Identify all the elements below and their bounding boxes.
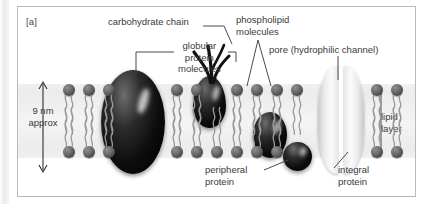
label-phospholipid-molecules: phospholipid molecules (236, 14, 289, 37)
label-line: 9 nm (22, 105, 64, 117)
label-line: molecules (236, 26, 289, 38)
phospholipid-molecule (170, 100, 184, 158)
phospholipid-tails (370, 107, 384, 147)
label-line: molecules (178, 63, 221, 75)
phospholipid-molecule (190, 100, 204, 158)
phospholipid-molecule (250, 100, 264, 158)
figure-panel: [a] (0, 0, 424, 204)
phospholipid-tails (62, 107, 76, 147)
phospholipid-molecule (82, 100, 96, 158)
phospholipid-tails (170, 107, 184, 147)
phospholipid-head (211, 146, 223, 158)
label-line: protein (338, 176, 369, 188)
phospholipid-tails (82, 107, 96, 147)
label-line: peripheral (205, 164, 247, 176)
phospholipid-molecule (102, 100, 116, 158)
phospholipid-head (103, 146, 115, 158)
phospholipid-tails (250, 107, 264, 147)
label-carbohydrate-chain: carbohydrate chain (108, 16, 189, 28)
label-pore: pore (hydrophilic channel) (269, 44, 378, 56)
label-line: approx (22, 117, 64, 129)
label-peripheral-protein: peripheral protein (205, 164, 247, 187)
phospholipid-molecule (290, 84, 304, 142)
phospholipid-molecule (210, 100, 224, 158)
phospholipid-head (83, 146, 95, 158)
phospholipid-tails (230, 107, 244, 147)
phospholipid-head (191, 146, 203, 158)
phospholipid-molecule (370, 100, 384, 158)
phospholipid-head (251, 146, 263, 158)
phospholipid-head (171, 146, 183, 158)
label-globular-protein-molecules: globular protein molecules (178, 40, 221, 75)
phospholipid-molecule (62, 100, 76, 158)
phospholipid-tails (190, 107, 204, 147)
phospholipid-tails (290, 95, 304, 135)
phospholipid-head (371, 146, 383, 158)
phospholipid-molecule (390, 100, 404, 158)
phospholipid-head (63, 146, 75, 158)
phospholipid-tails (210, 107, 224, 147)
phospholipid-tails (270, 107, 284, 147)
label-line: integral (338, 164, 369, 176)
phospholipid-molecule (270, 100, 284, 158)
label-line: protein (178, 52, 221, 64)
phospholipid-tails (390, 107, 404, 147)
label-integral-protein: integral protein (338, 164, 369, 187)
label-line: globular (178, 40, 221, 52)
label-membrane-thickness: 9 nm approx (22, 105, 64, 128)
phospholipid-head (231, 146, 243, 158)
phospholipid-head (271, 146, 283, 158)
label-line: phospholipid (236, 14, 289, 26)
phospholipid-head (391, 146, 403, 158)
phospholipid-tails (102, 107, 116, 147)
phospholipid-molecule (230, 100, 244, 158)
label-line: protein (205, 176, 247, 188)
